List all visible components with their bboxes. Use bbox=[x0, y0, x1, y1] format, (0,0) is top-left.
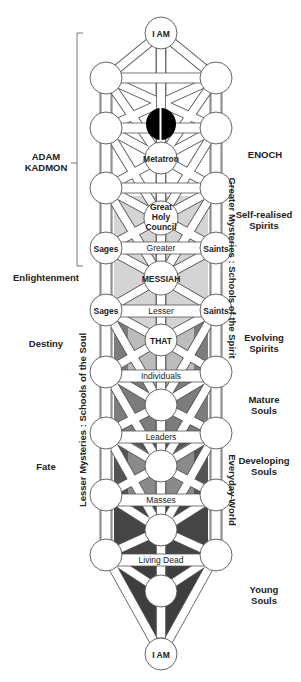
label-council-3: Council bbox=[145, 222, 176, 232]
node-center-leaders bbox=[145, 450, 177, 482]
label-greater: Greater bbox=[147, 243, 176, 253]
node-left-individuals bbox=[90, 356, 122, 388]
label-lesser-mysteries: Lesser Mysteries : Schools of the Soul bbox=[77, 333, 88, 507]
node-left-2 bbox=[90, 112, 122, 144]
label-council-1: Great bbox=[150, 202, 172, 212]
label-enoch: ENOCH bbox=[248, 149, 282, 160]
label-self-realised: Self-realised bbox=[236, 209, 293, 220]
label-fate: Fate bbox=[36, 461, 56, 472]
label-council-2: Holy bbox=[152, 212, 171, 222]
label-masses: Masses bbox=[146, 495, 175, 505]
label-everyday-world: Everyday World bbox=[227, 454, 238, 526]
label-evolving: Evolving bbox=[244, 332, 284, 343]
node-center-living-dead bbox=[145, 575, 177, 607]
label-young-souls: Souls bbox=[251, 595, 277, 606]
label-lesser: Lesser bbox=[148, 306, 174, 316]
node-right-individuals bbox=[200, 356, 232, 388]
label-bottom-i-am: I AM bbox=[152, 650, 170, 660]
label-saints-upper: Saints bbox=[203, 244, 229, 254]
label-metatron: Metatron bbox=[143, 154, 179, 164]
label-evolving-spirits: Spirits bbox=[249, 343, 279, 354]
node-right-2 bbox=[200, 112, 232, 144]
node-left-3 bbox=[90, 172, 122, 204]
label-mature: Mature bbox=[248, 394, 279, 405]
label-messiah: MESSIAH bbox=[142, 274, 181, 284]
adam-kadmon-bracket bbox=[71, 33, 83, 266]
label-mature-souls: Souls bbox=[251, 405, 277, 416]
node-center-individuals bbox=[145, 389, 177, 421]
label-young: Young bbox=[250, 584, 279, 595]
label-developing: Developing bbox=[238, 455, 289, 466]
label-living-dead: Living Dead bbox=[139, 555, 184, 565]
label-self-realised-spirits: Spirits bbox=[249, 220, 279, 231]
tree-of-life-diagram: I AM Metatron Great Holy Council Sages S… bbox=[0, 0, 301, 682]
label-individuals: Individuals bbox=[141, 371, 181, 381]
black-dot-divider bbox=[160, 108, 162, 140]
label-saints-lower: Saints bbox=[203, 306, 229, 316]
label-that: THAT bbox=[150, 336, 173, 346]
label-developing-souls: Souls bbox=[251, 466, 277, 477]
node-left-masses bbox=[90, 479, 122, 511]
label-top-i-am: I AM bbox=[152, 29, 170, 39]
label-sages-lower: Sages bbox=[93, 306, 118, 316]
label-adam: ADAM bbox=[32, 151, 61, 162]
node-center-masses bbox=[145, 514, 177, 546]
node-right-living-dead bbox=[200, 539, 232, 571]
label-sages-upper: Sages bbox=[93, 244, 118, 254]
node-right-1 bbox=[200, 62, 232, 94]
label-kadmon: KADMON bbox=[25, 162, 68, 173]
node-right-leaders bbox=[200, 417, 232, 449]
label-leaders: Leaders bbox=[146, 432, 177, 442]
label-destiny: Destiny bbox=[29, 338, 64, 349]
node-left-leaders bbox=[90, 417, 122, 449]
label-enlightenment: Enlightenment bbox=[13, 272, 80, 283]
label-greater-mysteries: Greater Mysteries : Schools of the Spiri… bbox=[227, 177, 238, 359]
node-left-1 bbox=[90, 62, 122, 94]
node-left-living-dead bbox=[90, 539, 122, 571]
